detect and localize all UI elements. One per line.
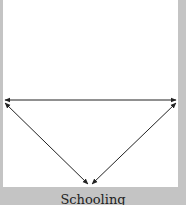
caption-bar: Schooling — [0, 187, 186, 205]
arrow-left-bottom — [5, 103, 88, 184]
caption-label: Schooling — [60, 187, 125, 205]
triangle-diagram — [0, 0, 186, 187]
arrow-right-bottom — [92, 103, 176, 184]
